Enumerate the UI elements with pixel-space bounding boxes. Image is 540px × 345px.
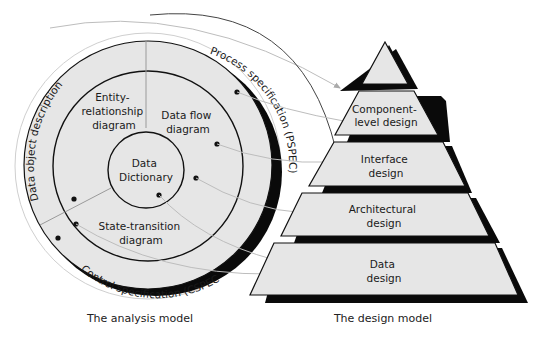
design-model-caption: The design model — [333, 312, 432, 325]
layer-label-component: Component- level design — [352, 103, 420, 128]
design-model: Component- level design Interface design… — [250, 42, 528, 325]
data-dictionary-circle — [108, 132, 184, 208]
analysis-to-design-diagram: Data object description Process specific… — [0, 0, 540, 345]
pyramid-layer-architectural[interactable]: Architectural design — [281, 193, 500, 243]
pyramid-layer-data[interactable]: Data design — [250, 243, 528, 303]
analysis-model: Data object description Process specific… — [0, 0, 299, 325]
pyramid-layer-component[interactable]: Component- level design — [335, 91, 450, 142]
pyramid-layer-interface[interactable]: Interface design — [309, 142, 472, 193]
analysis-model-caption: The analysis model — [86, 312, 193, 325]
pyramid-layer-apex — [340, 42, 418, 91]
